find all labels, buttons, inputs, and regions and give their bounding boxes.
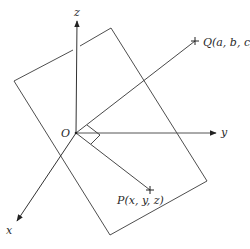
z-axis	[76, 21, 77, 133]
point-q-marker	[191, 37, 199, 45]
vector-op	[76, 133, 150, 190]
point-p-marker	[146, 186, 154, 194]
x-axis-label: x	[6, 224, 13, 237]
point-q-label: Q(a, b, c)	[203, 36, 250, 49]
coordinate-diagram: z y x O Q(a, b, c) P(x, y, z)	[0, 0, 250, 249]
right-angle-marker	[87, 125, 100, 144]
origin-point	[75, 132, 78, 135]
x-axis	[17, 133, 76, 221]
point-p-label: P(x, y, z)	[116, 194, 164, 207]
z-axis-label: z	[73, 6, 80, 19]
origin-label: O	[61, 127, 70, 140]
vector-oq	[76, 41, 195, 133]
plane	[14, 28, 207, 235]
y-axis-label: y	[220, 126, 228, 139]
